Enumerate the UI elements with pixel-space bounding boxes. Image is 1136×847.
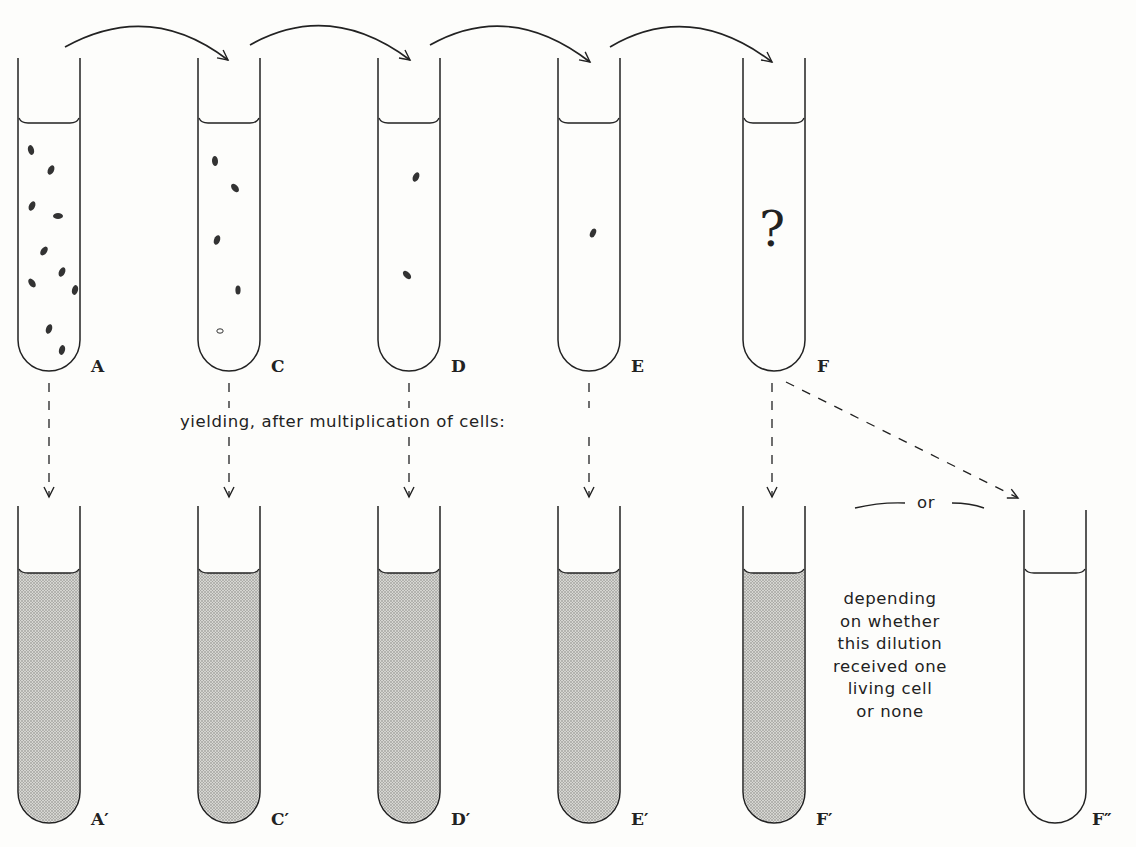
bottom-tube-e-prime <box>558 506 620 823</box>
or-label: or <box>917 493 935 512</box>
note-line: living cell <box>810 678 970 701</box>
bottom-tube-d-prime <box>378 506 440 823</box>
note-line: this dilution <box>810 633 970 656</box>
arrow-d-to-e <box>430 26 590 62</box>
arrow-f-to-fdouble <box>786 382 1018 498</box>
top-tube-e <box>558 58 620 371</box>
label-f-prime: F′ <box>816 809 833 829</box>
top-tube-d <box>378 58 440 371</box>
bottom-tube-c-prime <box>198 506 260 823</box>
arrow-e-to-f <box>610 27 772 62</box>
unknown-mark: ? <box>759 201 785 257</box>
label-c-prime: C′ <box>271 809 290 829</box>
note-line: depending <box>810 588 970 611</box>
top-tube-c <box>198 58 260 371</box>
label-d-prime: D′ <box>451 809 471 829</box>
cells-tube-a <box>27 144 80 355</box>
bottom-tube-f-double-prime <box>1024 510 1086 823</box>
bottom-tube-f-prime <box>743 506 805 823</box>
label-d: D <box>451 356 466 376</box>
label-e-prime: E′ <box>631 809 649 829</box>
note-line: or none <box>810 701 970 724</box>
note-line: on whether <box>810 611 970 634</box>
label-f-double-prime: F″ <box>1092 809 1112 829</box>
explanation-note: depending on whether this dilution recei… <box>810 588 970 723</box>
cells-tube-d <box>401 171 420 280</box>
label-e: E <box>631 356 644 376</box>
label-f: F <box>817 356 829 376</box>
growth-arrows <box>49 382 1018 498</box>
label-a: A <box>90 356 105 376</box>
label-a-prime: A′ <box>90 809 109 829</box>
arrow-a-to-c <box>65 26 228 60</box>
cells-tube-c <box>212 156 241 333</box>
caption-middle: yielding, after multiplication of cells: <box>180 412 505 431</box>
transfer-arrows <box>65 26 772 62</box>
label-c: C <box>271 356 285 376</box>
note-line: received one <box>810 656 970 679</box>
cells-tube-e <box>589 228 598 239</box>
top-tube-a <box>18 58 80 371</box>
arrow-c-to-d <box>250 26 410 60</box>
bottom-tube-a-prime <box>18 506 80 823</box>
